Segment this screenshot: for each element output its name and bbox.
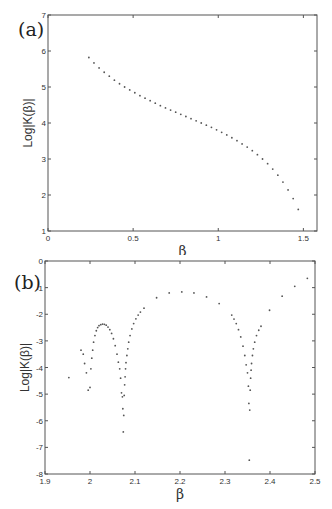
chart-a-data-point bbox=[139, 95, 141, 97]
chart-b-data-point bbox=[98, 325, 100, 327]
chart-b-data-point bbox=[135, 318, 137, 320]
chart-b-data-point bbox=[123, 395, 125, 397]
chart-a-data-point bbox=[195, 120, 197, 122]
chart-b-data-point bbox=[122, 431, 124, 433]
chart-a-data-point bbox=[93, 62, 95, 64]
chart-b-data-point bbox=[233, 318, 235, 320]
chart-a-data-point bbox=[297, 209, 299, 211]
chart-b-data-point bbox=[248, 385, 250, 387]
chart-b-data-point bbox=[168, 292, 170, 294]
chart-a-data-point bbox=[108, 75, 110, 77]
chart-b-data-point bbox=[87, 389, 89, 391]
chart-b-data-point bbox=[94, 335, 96, 337]
chart-a-data-point bbox=[205, 124, 207, 126]
chart-b-data-point bbox=[140, 311, 142, 313]
chart-b-data-point bbox=[156, 297, 158, 299]
chart-a-data-point bbox=[277, 174, 279, 176]
chart-b-ytick-label: -8 bbox=[36, 470, 44, 479]
chart-b-data-point bbox=[206, 296, 208, 298]
chart-a-data-point bbox=[144, 97, 146, 99]
chart-b-data-point bbox=[137, 314, 139, 316]
chart-a-data-point bbox=[200, 122, 202, 124]
chart-a-data-point bbox=[251, 150, 253, 152]
chart-a-data-point bbox=[272, 168, 274, 170]
chart-b-data-point bbox=[68, 377, 70, 379]
chart-a-data-point bbox=[159, 105, 161, 107]
chart-a-data-point bbox=[154, 102, 156, 104]
chart-b-data-point bbox=[124, 384, 126, 386]
chart-b-data-point bbox=[116, 353, 118, 355]
chart-a-data-point bbox=[267, 163, 269, 165]
chart-b-data-point bbox=[122, 408, 124, 410]
chart-a-xlabel: β bbox=[178, 243, 186, 255]
chart-a-data-point bbox=[134, 92, 136, 94]
chart-b-data-point bbox=[249, 409, 251, 411]
chart-b-data-point bbox=[181, 291, 183, 293]
chart-a-data-point bbox=[129, 89, 131, 91]
chart-b-ylabel: Log|K(β)| bbox=[18, 343, 32, 392]
chart-b-data-point bbox=[111, 333, 113, 335]
chart-a-data-point bbox=[246, 146, 248, 148]
chart-a-data-point bbox=[226, 134, 228, 136]
chart-a-data-point bbox=[119, 83, 121, 85]
chart-a-data-point bbox=[190, 118, 192, 120]
chart-b-data-point bbox=[90, 368, 92, 370]
chart-b-data-point bbox=[100, 324, 102, 326]
chart-a-data-point bbox=[180, 113, 182, 115]
chart-b-data-point bbox=[245, 364, 247, 366]
chart-b-data-point bbox=[124, 376, 126, 378]
chart-b-data-point bbox=[125, 368, 127, 370]
chart-b-data-point bbox=[120, 377, 122, 379]
chart-a-data-point bbox=[185, 116, 187, 118]
chart-b-data-point bbox=[86, 372, 88, 374]
chart-b-data-point bbox=[248, 403, 250, 405]
chart-a-data-point bbox=[149, 100, 151, 102]
chart-b-xtick-label: 2.4 bbox=[264, 477, 276, 486]
chart-b-ytick-label: -4 bbox=[36, 364, 44, 373]
chart-b-data-point bbox=[249, 389, 251, 391]
chart-a-xtick-label: 1 bbox=[216, 234, 221, 243]
chart-b-data-point bbox=[109, 329, 111, 331]
chart-b-data-point bbox=[260, 325, 262, 327]
chart-b-data-point bbox=[242, 345, 244, 347]
chart-a-data-point bbox=[211, 126, 213, 128]
chart-a-data-point bbox=[113, 79, 115, 81]
chart-b-data-point bbox=[131, 328, 133, 330]
chart-b-data-point bbox=[231, 314, 233, 316]
chart-b-data-point bbox=[250, 369, 252, 371]
chart-b-data-point bbox=[306, 277, 308, 279]
chart-b-data-point bbox=[256, 335, 258, 337]
chart-a-ytick-label: 5 bbox=[42, 83, 47, 92]
chart-b-data-point bbox=[105, 324, 107, 326]
chart-a-data-point bbox=[262, 158, 264, 160]
chart-b-data-point bbox=[248, 459, 250, 461]
chart-a-ytick-label: 7 bbox=[42, 11, 47, 20]
chart-a-data-point bbox=[282, 181, 284, 183]
chart-b-data-point bbox=[93, 341, 95, 343]
chart-b-ytick-label: 0 bbox=[39, 257, 44, 266]
chart-b-ytick-label: -6 bbox=[36, 417, 44, 426]
chart-b-data-point bbox=[107, 326, 109, 328]
chart-b-xtick-label: 2 bbox=[88, 477, 93, 486]
chart-b-xtick-label: 2.2 bbox=[174, 477, 186, 486]
chart-b-data-point bbox=[250, 377, 252, 379]
chart-b-data-point bbox=[123, 415, 125, 417]
chart-b-data-point bbox=[119, 368, 121, 370]
chart-a-data-point bbox=[287, 189, 289, 191]
chart-b-data-point bbox=[251, 363, 253, 365]
chart-a-data-point bbox=[216, 129, 218, 131]
chart-a-xtick-label: 0 bbox=[46, 234, 51, 243]
chart-b-data-point bbox=[252, 348, 254, 350]
chart-b-data-point bbox=[240, 336, 242, 338]
chart-b-data-point bbox=[143, 307, 145, 309]
chart-b-data-point bbox=[269, 309, 271, 311]
chart-b-data-point bbox=[254, 341, 256, 343]
chart-a-xtick-label: 0.5 bbox=[128, 234, 140, 243]
chart-b-data-point bbox=[193, 292, 195, 294]
chart-b-data-point bbox=[80, 349, 82, 351]
chart-b-xtick-label: 2.3 bbox=[219, 477, 231, 486]
chart-b-data-point bbox=[238, 329, 240, 331]
chart-b-data-point bbox=[133, 323, 135, 325]
chart-b-data-point bbox=[129, 335, 131, 337]
chart-a-data-point bbox=[175, 111, 177, 113]
